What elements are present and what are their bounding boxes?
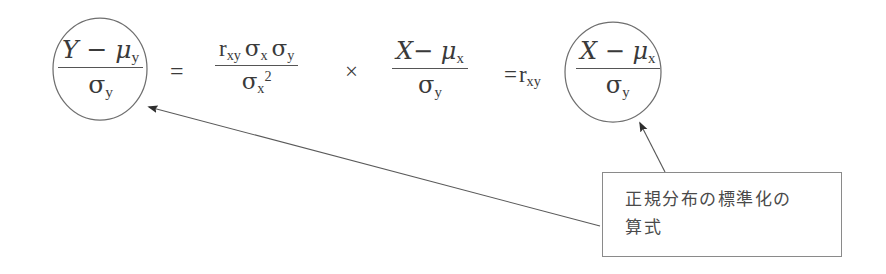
fraction-middle-denominator: σx2 bbox=[215, 66, 298, 97]
annotation-line-2: 算式 bbox=[625, 214, 825, 242]
arrow-annotation-to-right-circle bbox=[640, 123, 665, 172]
figure-canvas: Y − μy σy = rxy σx σy σx2 × X− μx σy = r… bbox=[0, 0, 886, 274]
equation-term-middle: rxy σx σy σx2 bbox=[215, 36, 298, 97]
fraction-third-numerator-text: X− μ bbox=[396, 37, 456, 65]
equals-sign-2: = bbox=[504, 62, 517, 87]
fraction-third: X− μx σy bbox=[392, 38, 468, 101]
fraction-result-numerator-text: X − μ bbox=[580, 37, 648, 65]
sigma-x-subscript: x bbox=[260, 47, 267, 63]
annotation-callout-box: 正規分布の標準化の 算式 bbox=[602, 172, 842, 257]
fraction-middle-denominator-text: σ bbox=[242, 68, 258, 94]
equation-term-left: Y − μy σy bbox=[58, 36, 143, 100]
fraction-left: Y − μy σy bbox=[58, 36, 143, 100]
fraction-middle: rxy σx σy σx2 bbox=[215, 36, 298, 97]
equation-term-result: X − μx σy bbox=[576, 38, 660, 101]
fraction-result-denominator-text: σ bbox=[606, 71, 622, 99]
fraction-third-denominator-subscript: y bbox=[434, 84, 441, 100]
fraction-left-denominator-text: σ bbox=[88, 70, 105, 99]
fraction-middle-denominator-exponent: 2 bbox=[264, 68, 271, 84]
fraction-result-numerator-subscript: x bbox=[648, 50, 655, 66]
sigma-y-subscript: y bbox=[287, 47, 294, 63]
fraction-left-numerator: Y − μy bbox=[58, 36, 143, 68]
fraction-middle-numerator: rxy σx σy bbox=[215, 36, 298, 66]
fraction-result-denominator-subscript: y bbox=[622, 84, 629, 100]
correlation-subscript: xy bbox=[227, 47, 241, 63]
equals-sign-1: = bbox=[170, 58, 184, 85]
arrow-annotation-to-left-circle bbox=[149, 107, 600, 226]
fraction-result-numerator: X − μx bbox=[576, 38, 660, 69]
sigma-x-symbol: σ bbox=[245, 35, 261, 61]
equation-term-third: X− μx σy bbox=[392, 38, 468, 101]
sigma-y-symbol: σ bbox=[271, 35, 287, 61]
fraction-left-numerator-text: Y − μ bbox=[62, 35, 132, 64]
fraction-result-denominator: σy bbox=[576, 69, 660, 101]
fraction-third-denominator-text: σ bbox=[418, 71, 434, 99]
fraction-third-denominator: σy bbox=[392, 69, 468, 101]
fraction-third-numerator-subscript: x bbox=[456, 50, 463, 66]
fraction-left-numerator-subscript: y bbox=[132, 48, 140, 65]
result-coefficient: r bbox=[519, 62, 527, 87]
equals-sign-2-with-coefficient: = rxy bbox=[504, 62, 541, 90]
fraction-third-numerator: X− μx bbox=[392, 38, 468, 69]
multiplication-sign: × bbox=[345, 59, 358, 85]
fraction-left-denominator: σy bbox=[58, 68, 143, 101]
result-coefficient-subscript: xy bbox=[527, 73, 541, 89]
fraction-result: X − μx σy bbox=[576, 38, 660, 101]
correlation-symbol: r bbox=[219, 36, 227, 61]
annotation-text: 正規分布の標準化の 算式 bbox=[625, 186, 825, 241]
annotation-line-1: 正規分布の標準化の bbox=[625, 186, 825, 214]
fraction-left-denominator-subscript: y bbox=[105, 83, 113, 100]
